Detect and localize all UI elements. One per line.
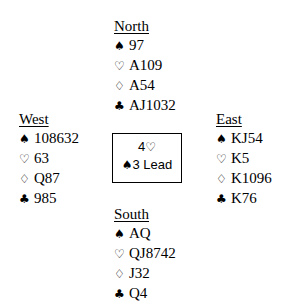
heart-icon: ♡ (19, 150, 34, 169)
club-icon: ♣ (19, 190, 34, 209)
contract-level: 4 (138, 139, 145, 154)
heart-icon: ♡ (114, 245, 129, 264)
west-hand: West ♠108632 ♡63 ♢Q87 ♣985 (19, 110, 79, 209)
heart-icon: ♡ (145, 139, 156, 156)
lead-card: 3 (132, 157, 139, 172)
west-hearts: 63 (34, 149, 49, 168)
east-hearts: K5 (231, 149, 249, 168)
north-spades: 97 (129, 36, 144, 55)
heart-icon: ♡ (216, 150, 231, 169)
lead-label: Lead (143, 157, 172, 172)
south-hand: South ♠AQ ♡QJ8742 ♢J32 ♣Q4 (114, 205, 176, 304)
diamond-icon: ♢ (216, 170, 231, 189)
club-icon: ♣ (216, 190, 231, 209)
east-clubs: K76 (231, 189, 257, 208)
north-diamonds: A54 (129, 76, 155, 95)
east-hand: East ♠KJ54 ♡K5 ♢K1096 ♣K76 (216, 110, 272, 209)
spade-icon: ♠ (19, 130, 34, 149)
west-diamonds: Q87 (34, 169, 60, 188)
south-diamonds: J32 (129, 264, 150, 283)
north-hearts: A109 (129, 56, 162, 75)
spade-icon: ♠ (216, 130, 231, 149)
club-icon: ♣ (114, 285, 129, 304)
west-spades: 108632 (34, 129, 79, 148)
north-hand: North ♠97 ♡A109 ♢A54 ♣AJ1032 (114, 17, 176, 116)
spade-icon: ♠ (114, 225, 129, 244)
south-hearts: QJ8742 (129, 244, 176, 263)
east-diamonds: K1096 (231, 169, 272, 188)
east-spades: KJ54 (231, 129, 263, 148)
diamond-icon: ♢ (114, 265, 129, 284)
south-spades: AQ (129, 224, 151, 243)
spade-icon: ♠ (122, 157, 133, 174)
diamond-icon: ♢ (19, 170, 34, 189)
west-clubs: 985 (34, 189, 57, 208)
opening-lead-line: ♠3 Lead (113, 156, 181, 174)
north-label: North (114, 17, 149, 36)
club-icon: ♣ (114, 97, 129, 116)
south-clubs: Q4 (129, 284, 147, 303)
heart-icon: ♡ (114, 57, 129, 76)
west-label: West (19, 110, 49, 129)
south-label: South (114, 205, 149, 224)
north-clubs: AJ1032 (129, 96, 176, 115)
contract-box: 4♡ ♠3 Lead (112, 133, 182, 183)
contract-line: 4♡ (113, 138, 181, 156)
east-label: East (216, 110, 242, 129)
spade-icon: ♠ (114, 37, 129, 56)
diamond-icon: ♢ (114, 77, 129, 96)
